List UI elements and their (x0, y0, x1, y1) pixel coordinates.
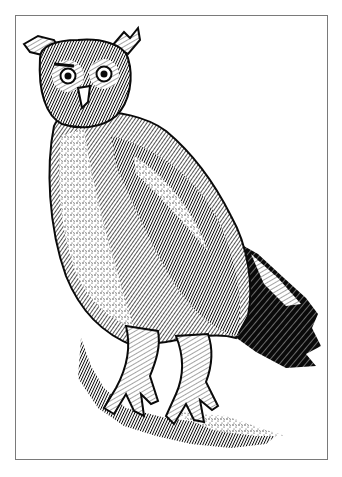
owl-body (50, 111, 251, 346)
caption (28, 470, 318, 477)
owl-illustration (16, 16, 328, 460)
owl-head (24, 28, 140, 127)
illustration-frame (15, 15, 328, 460)
